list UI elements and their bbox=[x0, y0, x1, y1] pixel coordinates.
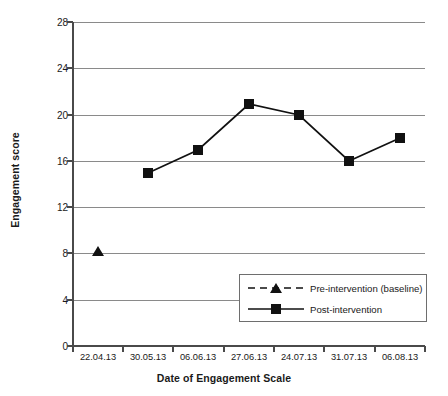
x-tick-22-04-13: 22.04.13 bbox=[80, 352, 116, 362]
x-tick-06-08-13: 06.08.13 bbox=[382, 352, 418, 362]
data-point-22-04-13-baseline bbox=[92, 246, 104, 256]
legend-item-pre-intervention: Pre-intervention (baseline) bbox=[246, 278, 423, 298]
data-point-31-07-13 bbox=[344, 156, 354, 166]
data-point-06-06-13 bbox=[193, 145, 203, 155]
legend-item-post-intervention: Post-intervention bbox=[246, 299, 382, 319]
plot-svg bbox=[0, 0, 448, 396]
x-tick-30-05-13: 30.05.13 bbox=[130, 352, 166, 362]
chart-legend: Pre-intervention (baseline) Post-interve… bbox=[239, 274, 427, 322]
series-post-intervention-line bbox=[148, 104, 400, 173]
data-point-30-05-13 bbox=[143, 168, 153, 178]
data-point-06-08-13 bbox=[395, 133, 405, 143]
x-tick-31-07-13: 31.07.13 bbox=[331, 352, 367, 362]
x-tick-27-06-13: 27.06.13 bbox=[231, 352, 267, 362]
x-axis-title: Date of Engagement Scale bbox=[0, 372, 448, 384]
legend-sample-dashed-triangle bbox=[246, 280, 306, 296]
data-point-24-07-13 bbox=[294, 110, 304, 120]
engagement-score-line-chart: Engagement score 28 24 20 16 12 8 4 0 bbox=[0, 0, 448, 396]
x-tick-06-06-13: 06.06.13 bbox=[180, 352, 216, 362]
x-tick-24-07-13: 24.07.13 bbox=[281, 352, 317, 362]
data-point-27-06-13 bbox=[244, 99, 254, 109]
legend-label-post-intervention: Post-intervention bbox=[310, 304, 382, 315]
legend-sample-solid-square bbox=[246, 301, 306, 317]
gridlines bbox=[73, 22, 425, 300]
legend-label-pre-intervention: Pre-intervention (baseline) bbox=[310, 283, 423, 294]
series-post-intervention-markers bbox=[143, 99, 405, 178]
y-tick-marks bbox=[67, 22, 73, 346]
